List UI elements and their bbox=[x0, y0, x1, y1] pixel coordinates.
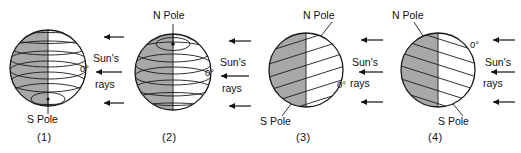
arrow-left-icon-1 bbox=[104, 34, 124, 40]
arrow-left-icon-2 bbox=[221, 73, 249, 79]
arrow-left-icon-3 bbox=[361, 99, 383, 105]
globe-1: Sun's rays 0° S Pole (1) bbox=[0, 0, 130, 153]
globe-4: N Pole S Pole Sun's rays 0° (4) bbox=[390, 0, 520, 153]
globe-3: N Pole S Pole Sun's rays 0° (3) bbox=[258, 0, 388, 153]
globe-1-drawing bbox=[0, 0, 130, 153]
equator-label: 0° bbox=[337, 80, 346, 90]
arrow-left-icon-1 bbox=[229, 38, 251, 44]
sun-rays-label-line2: rays bbox=[222, 83, 242, 94]
sun-rays-arrows bbox=[221, 38, 251, 109]
arrow-left-icon-2 bbox=[359, 69, 383, 75]
equator-label: 0° bbox=[470, 40, 479, 50]
sun-rays-label-line1: Sun's bbox=[352, 57, 378, 68]
north-pole-label: N Pole bbox=[303, 10, 335, 21]
shaded-hemisphere bbox=[269, 33, 306, 107]
sun-rays-label-line2: rays bbox=[95, 79, 115, 90]
sun-rays-label-line2: rays bbox=[350, 78, 370, 89]
globe-caption: (1) bbox=[37, 131, 52, 143]
sun-rays-arrows bbox=[359, 37, 383, 105]
equator-label: 0° bbox=[80, 64, 89, 74]
south-pole-label: S Pole bbox=[438, 116, 469, 127]
arrow-left-icon-3 bbox=[493, 99, 515, 105]
north-pole-leader-line bbox=[321, 22, 332, 36]
globe-caption: (3) bbox=[296, 131, 311, 143]
south-pole-label: S Pole bbox=[27, 114, 58, 125]
north-pole-label: N Pole bbox=[392, 10, 424, 21]
arrow-left-icon-1 bbox=[361, 37, 383, 43]
arrow-left-icon-2 bbox=[96, 69, 122, 75]
sun-rays-label-line1: Sun's bbox=[220, 57, 246, 68]
shaded-hemisphere bbox=[135, 34, 173, 110]
arrow-left-icon-1 bbox=[493, 37, 515, 43]
north-pole-point bbox=[171, 42, 175, 46]
sun-rays-label-line2: rays bbox=[483, 78, 503, 89]
sun-rays-arrows bbox=[96, 34, 124, 106]
north-pole-label: N Pole bbox=[153, 10, 185, 21]
globe-2: N Pole Sun's rays 0° (2) bbox=[125, 0, 255, 153]
sun-rays-label-line1: Sun's bbox=[485, 57, 511, 68]
south-pole-label: S Pole bbox=[260, 116, 291, 127]
arrow-left-icon-3 bbox=[229, 103, 251, 109]
globe-2-drawing bbox=[125, 0, 255, 153]
south-pole-point bbox=[46, 97, 49, 100]
equator-label: 0° bbox=[205, 68, 214, 78]
sun-rays-label-line1: Sun's bbox=[93, 53, 119, 64]
globe-caption: (4) bbox=[428, 131, 443, 143]
shaded-hemisphere bbox=[401, 33, 438, 107]
earth-orientation-diagram: Sun's rays 0° S Pole (1) bbox=[0, 0, 521, 153]
arrow-left-icon-3 bbox=[104, 100, 124, 106]
globe-caption: (2) bbox=[162, 131, 177, 143]
arrow-left-icon-2 bbox=[491, 69, 515, 75]
sun-rays-arrows bbox=[491, 37, 515, 105]
north-pole-leader-line bbox=[414, 22, 423, 36]
